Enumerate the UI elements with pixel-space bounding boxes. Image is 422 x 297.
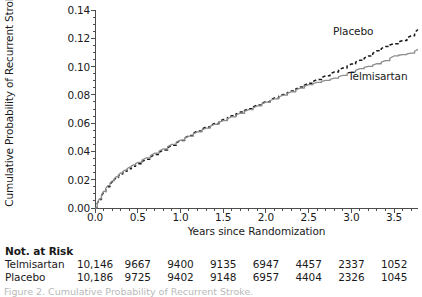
risk-cell: 9148	[200, 271, 246, 284]
risk-cell: 6957	[243, 271, 289, 284]
y-tick-label: 0.06	[56, 118, 90, 128]
risk-cell: 4404	[286, 271, 332, 284]
table-row: Telmisartan 10,1469667940091356947445723…	[0, 258, 422, 271]
risk-cell: 10,146	[72, 258, 118, 271]
y-tick-label: 0.02	[56, 175, 90, 185]
figure-caption-clipped: Figure 2. Cumulative Probability of Recu…	[4, 286, 422, 297]
risk-cell: 6947	[243, 258, 289, 271]
y-tick-label: 0.10	[56, 62, 90, 72]
x-axis-tick-labels: 0.00.51.01.52.02.53.03.5	[0, 212, 422, 226]
axes	[91, 10, 419, 213]
x-tick-label: 2.5	[289, 212, 329, 223]
series-label-telmisartan: Telmisartan	[348, 70, 407, 82]
y-tick-label: 0.08	[56, 90, 90, 100]
x-tick-label: 0.5	[118, 212, 158, 223]
risk-row-label: Placebo	[5, 271, 45, 284]
x-tick-label: 3.0	[331, 212, 371, 223]
risk-cell: 1052	[371, 258, 417, 271]
x-tick-label: 0.0	[75, 212, 115, 223]
risk-row-label: Telmisartan	[5, 258, 64, 271]
series-line-placebo	[95, 30, 418, 208]
risk-cell: 9400	[157, 258, 203, 271]
x-axis-title: Years since Randomization	[95, 225, 418, 237]
risk-cell: 2326	[328, 271, 374, 284]
numbers-at-risk-title: Not. at Risk	[5, 245, 73, 257]
risk-cell: 9402	[157, 271, 203, 284]
x-tick-label: 2.0	[246, 212, 286, 223]
y-tick-label: 0.04	[56, 146, 90, 156]
y-axis-tick-labels: 0.000.020.040.060.080.100.120.14	[56, 0, 90, 232]
y-tick-label: 0.12	[56, 33, 90, 43]
risk-cell: 1045	[371, 271, 417, 284]
y-tick-label: 0.14	[56, 5, 90, 15]
y-axis-title: Cumulative Probability of Recurrent Stro…	[0, 0, 18, 214]
series-label-placebo: Placebo	[333, 25, 373, 37]
risk-cell: 10,186	[72, 271, 118, 284]
x-tick-label: 1.0	[160, 212, 200, 223]
risk-cell: 2337	[328, 258, 374, 271]
x-tick-label: 1.5	[203, 212, 243, 223]
x-tick-label: 3.5	[374, 212, 414, 223]
risk-cell: 4457	[286, 258, 332, 271]
risk-cell: 9725	[115, 271, 161, 284]
risk-cell: 9667	[115, 258, 161, 271]
plot-area: 0.000.020.040.060.080.100.120.14 0.00.51…	[0, 0, 422, 232]
data-series	[95, 30, 418, 208]
table-row: Placebo 10,18697259402914869574404232610…	[0, 271, 422, 284]
numbers-at-risk-table: Not. at Risk Telmisartan 10,146966794009…	[0, 245, 422, 285]
risk-cell: 9135	[200, 258, 246, 271]
